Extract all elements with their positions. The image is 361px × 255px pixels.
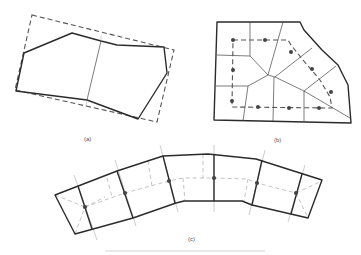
node-dots (83, 176, 298, 209)
rib-extensions (74, 145, 305, 240)
dashed-loop-path (232, 40, 332, 108)
panel-c-label: (c) (188, 236, 195, 242)
cell-edges (216, 22, 350, 121)
curved-strip-outline (55, 154, 322, 234)
outer-polygon (16, 33, 167, 119)
panel-c (55, 145, 322, 240)
panel-a-label: (a) (84, 136, 91, 142)
cell-divider (87, 41, 101, 100)
inner-dashed-dividers (55, 154, 322, 234)
solid-ribs (78, 154, 302, 229)
panel-b-label: (b) (274, 137, 281, 143)
panel-a (15, 15, 174, 122)
figure-canvas: (a) (0, 0, 361, 255)
dashed-centerline (85, 178, 296, 207)
panel-b (214, 22, 351, 123)
